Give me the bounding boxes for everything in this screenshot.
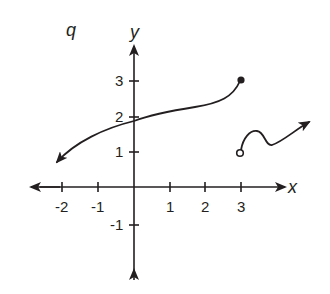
x-tick-label: 1 — [166, 198, 174, 215]
curve-piece-1 — [57, 81, 240, 162]
y-axis-label: y — [128, 22, 140, 42]
x-tick-label: -1 — [91, 198, 104, 215]
x-tick-label: -2 — [55, 198, 68, 215]
x-tick-label: 3 — [237, 198, 245, 215]
function-graph: q x y -2 -1 1 2 3 3 2 1 -1 — [0, 0, 330, 294]
y-tick-label: 1 — [115, 143, 123, 160]
x-axis-label: x — [287, 177, 298, 197]
y-tick-label: -1 — [110, 216, 123, 233]
y-tick-label: 2 — [115, 108, 123, 125]
curve-piece-2 — [241, 122, 309, 150]
x-tick-label: 2 — [201, 198, 209, 215]
open-circle — [237, 150, 244, 157]
y-tick-label: 3 — [115, 72, 123, 89]
closed-dot — [237, 76, 244, 83]
function-label: q — [66, 20, 76, 40]
